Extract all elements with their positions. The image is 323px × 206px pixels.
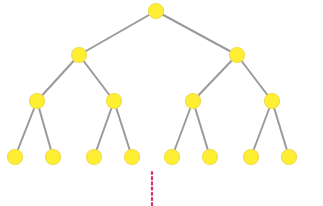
tree-node (46, 150, 61, 165)
tree-node (87, 150, 102, 165)
tree-edges (15, 11, 289, 157)
tree-edge (156, 11, 237, 55)
tree-edge (37, 101, 53, 157)
tree-edge (251, 101, 272, 157)
tree-node (125, 150, 140, 165)
tree-edge (193, 55, 237, 101)
tree-node (230, 48, 245, 63)
tree-edge (193, 101, 210, 157)
tree-edge (15, 101, 37, 157)
tree-nodes (8, 4, 297, 165)
tree-edge (237, 55, 272, 101)
binary-tree-diagram (0, 0, 323, 206)
tree-node (30, 94, 45, 109)
tree-edge (272, 101, 289, 157)
tree-node (149, 4, 164, 19)
tree-edge (37, 55, 79, 101)
tree-edge (94, 101, 114, 157)
tree-node (72, 48, 87, 63)
tree-edge (79, 11, 156, 55)
tree-node (244, 150, 259, 165)
tree-node (165, 150, 180, 165)
tree-node (186, 94, 201, 109)
tree-node (107, 94, 122, 109)
tree-node (8, 150, 23, 165)
tree-node (265, 94, 280, 109)
tree-edge (172, 101, 193, 157)
tree-node (203, 150, 218, 165)
tree-node (282, 150, 297, 165)
tree-edge (114, 101, 132, 157)
tree-edge (79, 55, 114, 101)
